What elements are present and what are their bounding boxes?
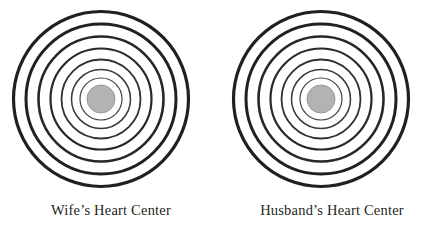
wife-heart-center-label: Wife’s Heart Center xyxy=(0,200,222,220)
center-core-disk xyxy=(307,85,335,113)
husband-heart-center-label: Husband’s Heart Center xyxy=(221,200,443,220)
diagram-page: Wife’s Heart Center Husband’s Heart Cent… xyxy=(0,0,443,229)
husband-heart-center-diagram: Husband’s Heart Center xyxy=(221,0,443,229)
center-core-disk xyxy=(87,85,115,113)
wife-rings-svg xyxy=(0,0,222,200)
wife-heart-center-diagram: Wife’s Heart Center xyxy=(0,0,222,229)
husband-rings-svg xyxy=(221,0,443,200)
